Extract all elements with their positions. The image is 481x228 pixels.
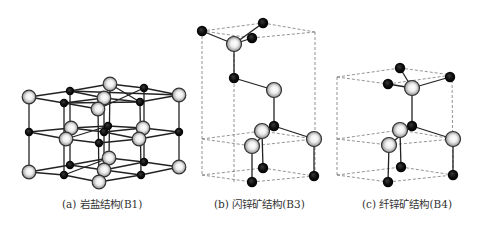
large-atom: [245, 139, 260, 154]
large-atom: [267, 83, 282, 98]
unit-cell-edge: [337, 167, 401, 175]
small-atom: [448, 170, 458, 180]
large-atom: [172, 88, 186, 102]
small-atom: [407, 121, 417, 131]
small-atom: [383, 177, 393, 187]
small-atom: [140, 84, 148, 92]
small-atom: [269, 121, 279, 131]
unit-cell-edge: [263, 23, 315, 32]
small-atom: [396, 162, 406, 172]
large-atom: [255, 124, 270, 139]
unit-cell-edge: [401, 167, 453, 175]
large-atom: [22, 90, 36, 104]
wurtzite-structure-panel: [337, 63, 461, 187]
small-atom: [66, 161, 74, 169]
caption-zinc-blende: (b) 闪锌矿结构(B3): [214, 196, 305, 211]
large-atom: [132, 132, 146, 146]
small-atom: [60, 99, 68, 107]
unit-cell-edge: [337, 68, 400, 77]
small-atom: [445, 72, 455, 82]
small-atom: [247, 33, 257, 43]
unit-cell-edge: [252, 176, 314, 182]
small-atom: [383, 79, 393, 89]
unit-cell-edge: [337, 175, 388, 182]
large-atom: [446, 132, 461, 147]
large-atom: [91, 102, 105, 116]
rock-salt-structure-panel: [22, 77, 186, 189]
small-atom: [197, 26, 207, 36]
caption-rock-salt: (a) 岩盐结构(B1): [62, 196, 142, 211]
large-atom: [59, 132, 73, 146]
small-atom: [140, 158, 148, 166]
small-atom: [309, 171, 319, 181]
unit-cell-edge: [389, 139, 453, 145]
small-atom: [258, 163, 268, 173]
unit-cell-edge: [202, 175, 252, 182]
unit-cell-edge: [388, 175, 453, 182]
small-atom: [95, 139, 103, 147]
small-atom: [137, 171, 145, 179]
unit-cell-edge: [263, 168, 314, 176]
large-atom: [227, 37, 242, 52]
unit-cell-edge: [202, 168, 263, 175]
zinc-blende-structure-panel: [197, 18, 322, 187]
small-atom: [258, 18, 268, 28]
unit-cell-edge: [252, 32, 315, 38]
large-atom: [172, 160, 186, 174]
large-atom: [307, 132, 322, 147]
unit-cell-edge: [337, 77, 388, 84]
large-atom: [22, 165, 36, 179]
large-atom: [103, 77, 117, 91]
small-atom: [100, 128, 108, 136]
crystal-structures-figure: [0, 0, 481, 228]
small-atom: [395, 63, 405, 73]
small-atom: [175, 128, 183, 136]
small-atom: [229, 73, 239, 83]
unit-cell-edge: [400, 68, 452, 75]
large-atom: [92, 175, 106, 189]
caption-wurtzite: (c) 纤锌矿结构(B4): [362, 196, 452, 211]
large-atom: [405, 81, 420, 96]
unit-cell-edge: [202, 131, 262, 139]
small-atom: [25, 128, 33, 136]
large-atom: [393, 123, 408, 138]
small-atom: [60, 171, 68, 179]
unit-cell-edge: [252, 139, 314, 146]
small-atom: [66, 87, 74, 95]
small-atom: [247, 177, 257, 187]
small-atom: [136, 98, 144, 106]
large-atom: [382, 138, 397, 153]
